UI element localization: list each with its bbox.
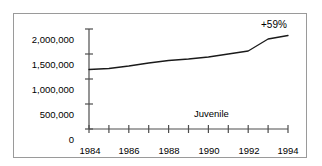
- axis-ticks: [85, 29, 288, 133]
- percent-change-annotation: +59%: [261, 20, 287, 30]
- xtick-label-1994: 1994: [268, 146, 308, 156]
- xtick-label-1986: 1986: [109, 146, 149, 156]
- data-series-lines: [89, 36, 288, 70]
- xtick-label-1990: 1990: [189, 146, 229, 156]
- xtick-label-1984: 1984: [70, 146, 110, 156]
- series-label-juvenile: Juvenile: [194, 109, 229, 119]
- chart-figure: 2,000,000 1,500,000 1,000,000 500,000 0 …: [0, 0, 322, 166]
- series-line-juvenile: [89, 36, 288, 70]
- ytick-label-0: 0: [4, 135, 74, 145]
- xtick-label-1992: 1992: [229, 146, 269, 156]
- chart-frame: 2,000,000 1,500,000 1,000,000 500,000 0 …: [13, 13, 307, 158]
- ytick-label-1000000: 1,000,000: [4, 85, 74, 95]
- ytick-label-500000: 500,000: [4, 110, 74, 120]
- ytick-label-2000000: 2,000,000: [4, 35, 74, 45]
- axes-group: [89, 29, 288, 129]
- xtick-label-1988: 1988: [149, 146, 189, 156]
- ytick-label-1500000: 1,500,000: [4, 60, 74, 70]
